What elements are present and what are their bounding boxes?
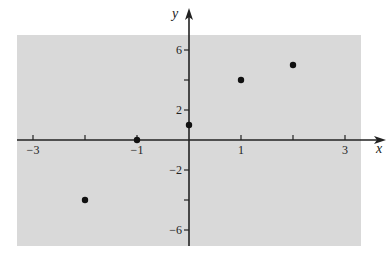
x-axis-label: x — [375, 141, 383, 156]
x-tick-label: −1 — [131, 143, 144, 157]
data-point — [82, 197, 88, 203]
x-tick-label: −3 — [27, 143, 40, 157]
y-tick-label: −2 — [169, 163, 182, 177]
y-tick-label: 2 — [176, 103, 182, 117]
y-tick-label: 6 — [176, 43, 182, 57]
x-tick-label: 3 — [342, 143, 348, 157]
data-point — [134, 137, 140, 143]
data-point — [186, 122, 192, 128]
scatter-chart: −3−113−6−226 x y — [0, 0, 389, 256]
data-point — [238, 77, 244, 83]
data-point — [290, 62, 296, 68]
x-tick-label: 1 — [238, 143, 244, 157]
y-tick-label: −6 — [169, 223, 182, 237]
y-axis-label: y — [170, 6, 179, 21]
